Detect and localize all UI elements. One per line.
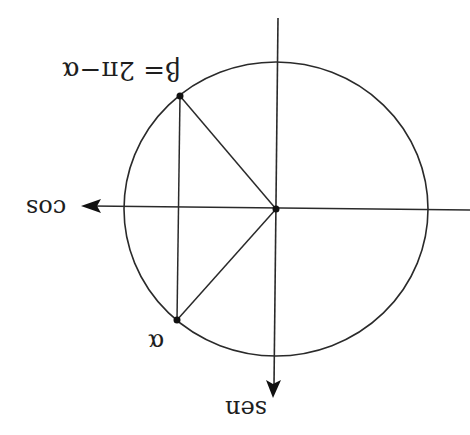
unit-circle-diagram: cos sen β= 2π−α α bbox=[0, 0, 470, 435]
chord-alpha-beta bbox=[177, 96, 180, 320]
radius-beta bbox=[180, 96, 276, 209]
alpha-label: α bbox=[148, 330, 164, 354]
alpha-point bbox=[174, 317, 181, 324]
cos-axis bbox=[92, 206, 470, 210]
cos-axis-label: cos bbox=[26, 196, 66, 220]
beta-point bbox=[177, 93, 184, 100]
center-point bbox=[273, 206, 280, 213]
radius-alpha bbox=[177, 209, 276, 320]
beta-label: β= 2π−α bbox=[62, 58, 180, 84]
sen-axis bbox=[274, 18, 278, 385]
sen-axis-label: sen bbox=[225, 397, 267, 421]
